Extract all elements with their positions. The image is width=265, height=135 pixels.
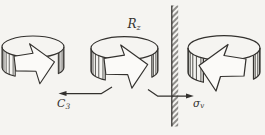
rotation-label: Rz: [127, 17, 142, 32]
c3-arrowhead-icon: [59, 91, 67, 96]
c3-arrow-line: [63, 87, 112, 94]
sigma-v-label: σv: [193, 97, 204, 111]
sigma-v-arrow-line: [148, 90, 190, 97]
symmetry-diagram: Rz C3 σv: [0, 0, 265, 135]
figure-canvas: Rz C3 σv: [0, 0, 265, 135]
mirror-hatching: [172, 6, 178, 127]
rotation-ring-original: [2, 36, 64, 84]
rotation-ring-after-c3: [91, 37, 158, 89]
c3-label: C3: [57, 97, 70, 111]
rotation-label-main: R: [127, 17, 137, 31]
mirror-plane: [172, 6, 178, 127]
rotation-label-sub: z: [136, 23, 142, 32]
c3-label-sub: 3: [65, 102, 70, 111]
c3-operation-arrow: C3: [57, 87, 112, 111]
rotation-ring-after-sigma: [188, 36, 260, 92]
sigma-v-label-sub: v: [200, 102, 204, 110]
